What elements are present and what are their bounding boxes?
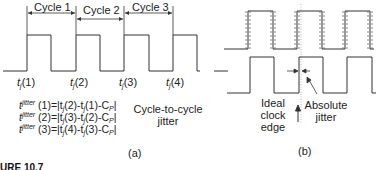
- cycle-to-cycle-jitter-label: Cycle-to-cycle jitter: [132, 103, 204, 127]
- panel-a-label: (a): [128, 147, 141, 159]
- edge-label-3: tj(3): [119, 76, 137, 92]
- jitter-bands: [246, 11, 372, 49]
- ideal-edge-arrow: [296, 105, 301, 122]
- cycle-2-label: Cycle 2: [83, 4, 120, 16]
- panel-b-label: (b): [298, 145, 311, 157]
- edge-label-1: tj(1): [17, 76, 35, 92]
- edge-label-2: tj(2): [70, 76, 88, 92]
- absolute-jitter-markers: [287, 69, 317, 94]
- edge-label-4: tj(4): [166, 76, 184, 92]
- actual-waveform: [227, 57, 376, 93]
- equation-3: tjitter (3)=|tj(4)-tj(3)-CP|: [19, 121, 116, 139]
- ideal-clock-edge-label: Ideal clock edge: [255, 97, 291, 133]
- diagram-canvas: [0, 0, 392, 170]
- absolute-jitter-label: Absolute jitter: [303, 99, 349, 123]
- figure-caption: URE 10.7: [0, 162, 43, 170]
- clock-waveform-a: [3, 35, 200, 71]
- cycle-1-label: Cycle 1: [34, 1, 71, 13]
- cycle-3-label: Cycle 3: [132, 1, 169, 13]
